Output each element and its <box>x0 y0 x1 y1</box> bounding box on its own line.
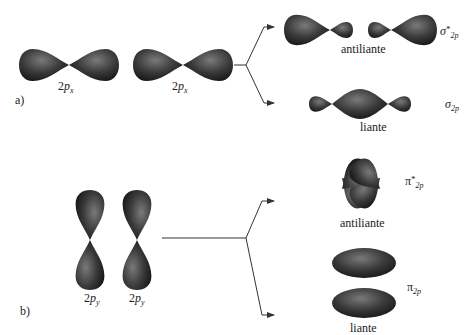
panel-b-label: b) <box>20 305 30 317</box>
pi-star-2p-orbital <box>333 154 390 212</box>
pi-2p-orbital <box>332 248 396 318</box>
panel-a-label: a) <box>15 94 24 106</box>
bracket-arrows-b <box>162 201 274 315</box>
label-2py-1: 2py <box>84 292 100 304</box>
caption-antibonding-b: antiliante <box>340 217 385 229</box>
label-sigma-2p: σ2p <box>445 98 459 110</box>
2py-orbital-1 <box>76 190 105 290</box>
caption-bonding-a: liante <box>360 121 387 133</box>
label-sigma-star-2p: σ*2p <box>440 25 458 37</box>
bracket-arrows-a <box>234 27 274 103</box>
2py-orbital-2 <box>123 190 152 290</box>
sigma-star-2p-orbital <box>284 15 437 45</box>
label-2py-2: 2py <box>129 292 145 304</box>
2px-orbital-2 <box>133 49 233 81</box>
label-pi-2p: π2p <box>407 281 421 293</box>
label-2px-1: 2px <box>58 80 74 92</box>
sigma-2p-orbital <box>309 89 411 119</box>
label-2px-2: 2px <box>172 80 188 92</box>
2px-orbital-1 <box>19 49 119 81</box>
caption-bonding-b: liante <box>350 322 377 334</box>
label-pi-star-2p: π*2p <box>405 175 424 187</box>
orbital-diagram <box>0 0 476 335</box>
caption-antibonding-a: antiliante <box>341 43 386 55</box>
